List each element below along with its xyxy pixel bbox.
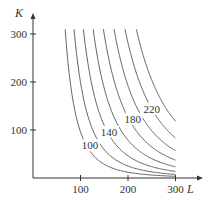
curve-label-140: 140: [101, 126, 118, 138]
isoquant-180: [103, 29, 175, 160]
y-axis-title: K: [14, 6, 24, 20]
y-tick-label: 200: [11, 76, 28, 88]
isoquant-chart: 100200300100200300LK 100140180220: [0, 0, 206, 202]
x-axis-title: L: [186, 182, 194, 196]
curve-labels: 100140180220: [80, 103, 162, 151]
curve-label-100: 100: [82, 139, 99, 151]
y-axis-arrow-icon: [31, 13, 36, 19]
x-tick-label: 100: [72, 183, 89, 195]
y-tick-label: 100: [11, 124, 28, 136]
x-axis-arrow-icon: [197, 176, 203, 181]
isoquant-160: [93, 29, 175, 167]
curve-label-180: 180: [125, 113, 142, 125]
isoquant-200: [114, 29, 175, 150]
y-tick-label: 300: [11, 28, 28, 40]
chart-canvas: 100200300100200300LK 100140180220: [0, 0, 206, 202]
x-tick-label: 300: [167, 183, 184, 195]
x-tick-label: 200: [120, 183, 137, 195]
axes: 100200300100200300LK: [11, 6, 204, 196]
curve-label-220: 220: [144, 103, 161, 115]
